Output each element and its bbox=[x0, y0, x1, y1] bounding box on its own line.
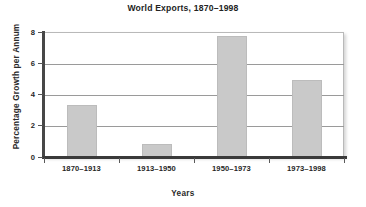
y-axis-tick-label: 2 bbox=[22, 121, 35, 130]
bar[interactable] bbox=[217, 36, 247, 158]
x-axis-tick bbox=[344, 158, 345, 163]
x-axis-title: Years bbox=[0, 189, 366, 198]
gridline bbox=[44, 64, 344, 65]
y-axis-tick-label: 8 bbox=[22, 28, 35, 37]
x-axis-tick bbox=[269, 158, 270, 163]
x-axis-tick-label: 1950–1973 bbox=[194, 164, 269, 173]
y-axis-tick bbox=[38, 157, 43, 158]
x-axis-tick-label: 1870–1913 bbox=[44, 164, 119, 173]
x-axis-tick bbox=[44, 158, 45, 163]
bar[interactable] bbox=[292, 80, 322, 158]
y-axis-tick bbox=[38, 94, 43, 95]
chart-title: World Exports, 1870–1998 bbox=[0, 3, 366, 13]
x-axis-tick bbox=[194, 158, 195, 163]
y-axis-title: Percentage Growth per Annum bbox=[12, 17, 21, 157]
y-axis-tick-label: 6 bbox=[22, 59, 35, 68]
y-axis-tick-label: 0 bbox=[22, 153, 35, 162]
y-axis-tick bbox=[38, 125, 43, 126]
x-axis-tick-label: 1913–1950 bbox=[119, 164, 194, 173]
y-axis-tick bbox=[38, 32, 43, 33]
chart-figure: World Exports, 1870–1998 Percentage Grow… bbox=[0, 0, 366, 207]
plot-area bbox=[44, 32, 344, 157]
x-axis-tick bbox=[119, 158, 120, 163]
y-axis-tick-label: 4 bbox=[22, 90, 35, 99]
y-axis-tick bbox=[38, 63, 43, 64]
bar[interactable] bbox=[67, 105, 97, 158]
x-axis-tick-label: 1973–1998 bbox=[269, 164, 344, 173]
